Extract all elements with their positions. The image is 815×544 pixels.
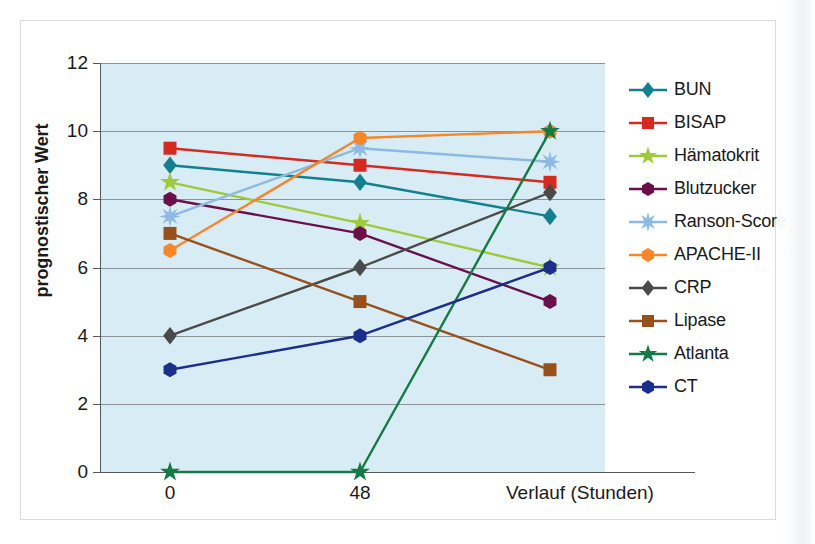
legend-label: Blutzucker: [668, 178, 756, 199]
legend-marker-icon: [628, 112, 668, 134]
y-axis-tick-labels: 024681012: [40, 0, 88, 544]
legend-label: APACHE-II: [668, 244, 761, 265]
x-axis-title: Verlauf (Stunden): [506, 482, 654, 504]
y-tick-label: 12: [44, 53, 88, 72]
y-tick-mark: [93, 199, 100, 200]
legend-label: Ranson-Score: [668, 211, 787, 232]
legend-marker-icon: [628, 376, 668, 398]
legend-label: CRP: [668, 277, 711, 298]
y-tick-mark: [93, 404, 100, 405]
legend-marker-icon: [628, 310, 668, 332]
legend-marker-icon: [628, 244, 668, 266]
y-tick-mark: [93, 131, 100, 132]
y-tick-label: 2: [44, 394, 88, 413]
legend-label: Atlanta: [668, 343, 729, 364]
y-tick-mark: [93, 336, 100, 337]
legend-marker-icon: [628, 145, 668, 167]
x-axis-line: [100, 472, 695, 473]
legend-marker-icon: [628, 178, 668, 200]
legend-label: Lipase: [668, 310, 726, 331]
legend-marker-icon: [628, 343, 668, 365]
legend-marker-icon: [628, 79, 668, 101]
y-tick-label: 10: [44, 121, 88, 140]
y-tick-mark: [93, 63, 100, 64]
gridline: [100, 336, 605, 337]
y-tick-label: 4: [44, 326, 88, 345]
y-tick-mark: [93, 268, 100, 269]
gridline: [100, 131, 605, 132]
legend-marker-icon: [628, 277, 668, 299]
x-tick-label: 48: [320, 482, 400, 504]
gridline: [100, 404, 605, 405]
chart-figure: prognostischer Wert 024681012 048 Verlau…: [0, 0, 815, 544]
y-tick-label: 8: [44, 189, 88, 208]
y-axis-line: [100, 63, 101, 472]
y-tick-label: 0: [44, 462, 88, 481]
gridline: [100, 199, 605, 200]
legend-label: CT: [668, 376, 698, 397]
legend-label: BUN: [668, 79, 711, 100]
y-tick-mark: [93, 472, 100, 473]
y-tick-label: 6: [44, 258, 88, 277]
plot-area: [100, 63, 605, 472]
x-tick-label: 0: [130, 482, 210, 504]
gridline: [100, 63, 605, 64]
legend-label: Hämatokrit: [668, 145, 759, 166]
gridline: [100, 268, 605, 269]
scan-edge-artifact: [777, 0, 815, 544]
legend-label: BISAP: [668, 112, 726, 133]
legend-marker-icon: [628, 211, 668, 233]
